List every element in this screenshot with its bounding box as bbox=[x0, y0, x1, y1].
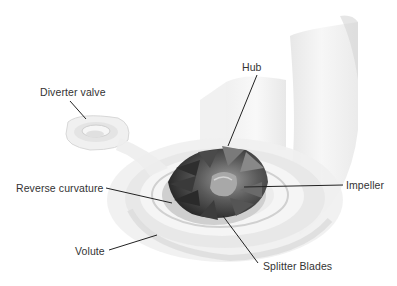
compressor-illustration bbox=[0, 0, 397, 286]
label-impeller: Impeller bbox=[346, 179, 384, 191]
label-diverter-valve: Diverter valve bbox=[40, 86, 106, 98]
label-hub: Hub bbox=[242, 61, 262, 73]
diverter-valve-shape bbox=[66, 116, 168, 176]
label-reverse-curvature: Reverse curvature bbox=[16, 182, 103, 194]
label-splitter-blades: Splitter Blades bbox=[263, 260, 332, 272]
label-volute: Volute bbox=[75, 245, 105, 257]
compressor-diagram: Diverter valve Hub Reverse curvature Vol… bbox=[0, 0, 397, 286]
leader-diverter-valve bbox=[70, 101, 86, 119]
